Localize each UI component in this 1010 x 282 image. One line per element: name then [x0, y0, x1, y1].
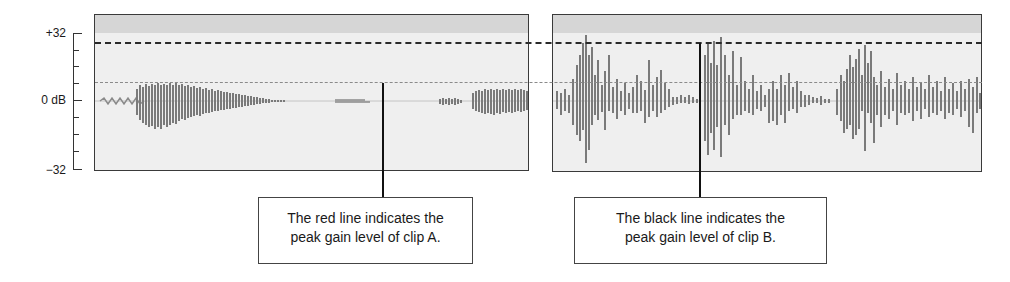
y-axis-tick [73, 134, 79, 135]
callout-a-line2: peak gain level of clip A. [259, 228, 472, 247]
clip-a-waveform [95, 15, 529, 171]
y-axis-tick [73, 50, 79, 51]
callout-b: The black line indicates the peak gain l… [574, 197, 827, 264]
y-axis-label-zero: 0 dB [16, 93, 66, 107]
y-axis-label-bottom: −32 [16, 163, 66, 177]
callout-b-line1: The black line indicates the [575, 209, 826, 228]
callout-b-leader-line [699, 43, 701, 198]
y-axis-tick [73, 169, 82, 170]
y-axis-tick [73, 151, 79, 152]
clip-b-waveform [553, 15, 982, 172]
y-axis-tick [73, 117, 79, 118]
peak-line-clip-b [95, 42, 982, 44]
callout-a-line1: The red line indicates the [259, 209, 472, 228]
y-axis-line [73, 33, 74, 170]
peak-line-clip-a [95, 82, 982, 83]
callout-a-leader-line [382, 83, 384, 198]
clip-b-panel[interactable] [552, 14, 982, 172]
callout-a: The red line indicates the peak gain lev… [258, 197, 473, 264]
y-axis-tick [73, 100, 82, 101]
clip-a-panel[interactable] [94, 14, 529, 171]
callout-b-line2: peak gain level of clip B. [575, 228, 826, 247]
y-axis-tick [73, 33, 82, 34]
y-axis-tick [73, 83, 79, 84]
y-axis-label-top: +32 [16, 26, 66, 40]
y-axis-tick [73, 66, 79, 67]
